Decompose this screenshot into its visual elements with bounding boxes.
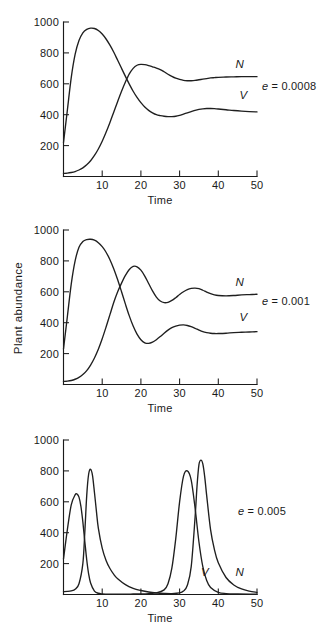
x-tick-label: 10: [96, 387, 109, 399]
x-tick-label: 50: [251, 179, 264, 191]
y-ticks-1: [64, 230, 70, 354]
x-tick-label: 40: [212, 179, 225, 191]
x-tick-label: 40: [212, 387, 225, 399]
y-tick-labels-1: 1000 800 600 400 200: [34, 224, 59, 360]
y-tick-label: 800: [40, 47, 59, 59]
chart-panel-1: 1000 800 600 400 200 10 20 30 40 50 Time: [0, 208, 319, 418]
param-annotation: e = 0.0008: [262, 80, 316, 92]
x-axis-title: Time: [147, 194, 172, 206]
chart-svg-2: 1000 800 600 400 200 10 20 30 40 50 Time: [0, 418, 319, 628]
curves-0: [64, 28, 258, 173]
x-tick-labels-1: 10 20 30 40 50: [96, 387, 263, 399]
y-tick-label: 400: [40, 109, 59, 121]
y-tick-label: 600: [40, 286, 59, 298]
y-axis-title: Plant abundance: [12, 262, 24, 354]
curve-v: [64, 28, 258, 142]
curves-1: [64, 239, 258, 381]
y-tick-label: 800: [40, 465, 59, 477]
chart-panel-2: 1000 800 600 400 200 10 20 30 40 50 Time: [0, 418, 319, 628]
series-label-n: N: [235, 58, 244, 70]
x-tick-label: 20: [135, 179, 148, 191]
x-tick-label: 40: [212, 597, 225, 609]
y-tick-label: 600: [40, 78, 59, 90]
x-tick-label: 50: [251, 387, 264, 399]
param-annotation: e = 0.001: [262, 295, 310, 307]
curve-v: [64, 239, 258, 349]
y-ticks-0: [64, 22, 70, 146]
y-tick-label: 600: [40, 496, 59, 508]
x-tick-label: 30: [173, 597, 186, 609]
x-tick-label: 20: [135, 387, 148, 399]
series-label-n: N: [235, 566, 244, 578]
x-tick-label: 20: [135, 597, 148, 609]
figure-container: 1000 800 600 400 200 10 20 30 40 50 Time: [0, 0, 319, 629]
y-tick-label: 200: [40, 348, 59, 360]
curve-n: [64, 64, 258, 173]
y-tick-label: 200: [40, 140, 59, 152]
chart-panel-0: 1000 800 600 400 200 10 20 30 40 50 Time: [0, 0, 319, 210]
y-tick-labels-2: 1000 800 600 400 200: [34, 434, 59, 570]
x-axis-title: Time: [147, 612, 172, 624]
series-labels-0: N V: [235, 58, 248, 101]
series-label-v: V: [240, 89, 249, 101]
x-ticks-1: [102, 379, 257, 385]
y-tick-label: 1000: [34, 224, 59, 236]
curve-n: [64, 460, 258, 594]
x-tick-label: 10: [96, 597, 109, 609]
y-tick-label: 400: [40, 317, 59, 329]
series-label-n: N: [235, 276, 244, 288]
chart-svg-0: 1000 800 600 400 200 10 20 30 40 50 Time: [0, 0, 319, 210]
axes-group-2: [64, 440, 258, 595]
series-label-v: V: [201, 566, 210, 578]
y-tick-label: 1000: [34, 16, 59, 28]
curve-v: [64, 471, 258, 594]
x-tick-labels-2: 10 20 30 40 50: [96, 597, 263, 609]
chart-svg-1: 1000 800 600 400 200 10 20 30 40 50 Time: [0, 208, 319, 418]
y-tick-labels-0: 1000 800 600 400 200: [34, 16, 59, 152]
y-ticks-2: [64, 440, 70, 564]
x-axis-title: Time: [147, 402, 172, 414]
y-tick-label: 200: [40, 558, 59, 570]
y-tick-label: 800: [40, 255, 59, 267]
x-tick-label: 30: [173, 387, 186, 399]
param-annotation: e = 0.005: [238, 505, 286, 517]
x-tick-label: 10: [96, 179, 109, 191]
x-tick-labels-0: 10 20 30 40 50: [96, 179, 263, 191]
x-tick-label: 30: [173, 179, 186, 191]
series-labels-1: N V: [235, 276, 248, 324]
y-tick-label: 1000: [34, 434, 59, 446]
series-label-v: V: [240, 311, 249, 323]
y-tick-label: 400: [40, 527, 59, 539]
x-ticks-0: [102, 171, 257, 177]
axes-group-0: [64, 22, 258, 177]
curve-n: [64, 266, 258, 381]
curves-2: [64, 460, 258, 594]
x-tick-label: 50: [251, 597, 264, 609]
